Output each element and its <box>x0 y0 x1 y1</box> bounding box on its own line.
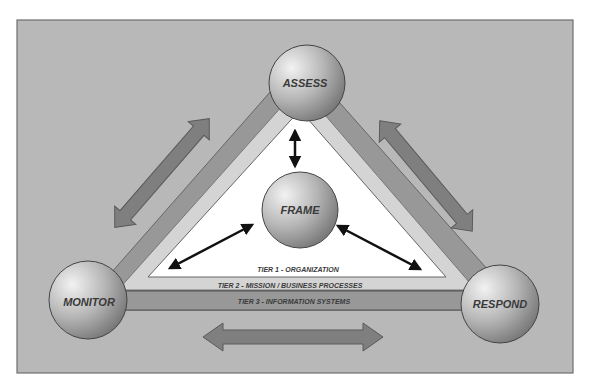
node-frame-label: FRAME <box>280 204 320 216</box>
tier-1-label: TIER 1 - ORGANIZATION <box>257 266 339 273</box>
node-monitor-label: MONITOR <box>63 296 115 308</box>
node-assess-label: ASSESS <box>282 77 328 89</box>
tier-2-label: TIER 2 - MISSION / BUSINESS PROCESSES <box>218 282 363 289</box>
node-assess[interactable]: ASSESS <box>269 45 345 121</box>
risk-management-diagram: TIER 1 - ORGANIZATION TIER 2 - MISSION /… <box>0 0 591 391</box>
node-respond[interactable]: RESPOND <box>461 265 539 343</box>
tier-3-label: TIER 3 - INFORMATION SYSTEMS <box>238 298 351 305</box>
node-frame[interactable]: FRAME <box>262 172 338 248</box>
node-monitor[interactable]: MONITOR <box>49 261 127 339</box>
node-respond-label: RESPOND <box>473 298 527 310</box>
